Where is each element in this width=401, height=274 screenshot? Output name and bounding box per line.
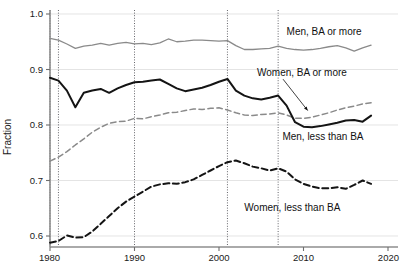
series-annotation-label: Women, BA or more (257, 67, 347, 78)
series-annotation-label: Men, less than BA (282, 131, 363, 142)
y-axis-tick-label: 0.9 (30, 64, 43, 75)
line-chart: 0.60.70.80.91.019801990200020102020 Men,… (0, 0, 401, 274)
y-axis-tick-label: 0.7 (30, 175, 43, 186)
chart-container: 0.60.70.80.91.019801990200020102020 Men,… (0, 0, 401, 274)
x-axis-tick-label: 1980 (39, 252, 60, 263)
series-line-2 (50, 78, 371, 127)
y-axis-tick-label: 0.6 (30, 230, 43, 241)
y-axis-tick-label: 1.0 (30, 8, 43, 19)
series-annotation-label: Women, less than BA (244, 202, 340, 213)
x-axis-tick-label: 2010 (293, 252, 314, 263)
series-line-0 (50, 38, 371, 51)
y-axis-title: Fraction (2, 119, 13, 155)
x-axis-tick-label: 2020 (378, 252, 399, 263)
x-axis-tick-label: 2000 (208, 252, 229, 263)
x-axis-tick-label: 1990 (124, 252, 145, 263)
series-annotation-label: Men, BA or more (287, 26, 362, 37)
y-axis-tick-label: 0.8 (30, 119, 43, 130)
